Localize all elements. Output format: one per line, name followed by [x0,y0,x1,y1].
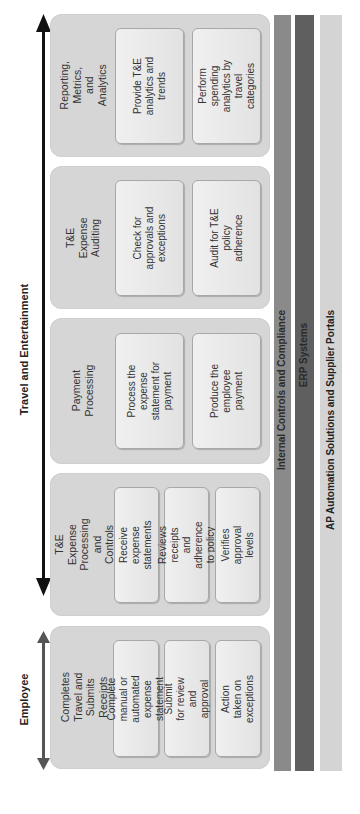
panel-reporting-metrics-analytics: Reporting, Metrics, and Analytics Provid… [50,14,270,157]
task-box: Complete manual or automated expense sta… [113,640,159,757]
panel-payment-processing: Payment Processing Process the expense s… [50,318,270,464]
panel-title: Reporting, Metrics, and Analytics [58,18,108,153]
task-box: Check for approvals and exceptions [115,180,184,296]
bar-internal-controls: Internal Controls and Compliance [274,15,291,771]
panel-title: T&E Expense Auditing [58,170,108,305]
task-box: Receive expense statements [114,487,159,603]
task-box: Provide T&E analytics and trends [115,28,184,144]
panel-completes-travel-submits-receipts: Completes Travel and Submits Receipts Co… [50,626,270,769]
task-box: Verifies approval levels [215,487,260,603]
arrowhead-down-icon [36,578,51,596]
task-box: Produce the employee payment [192,333,261,449]
arrowhead-up-icon [36,14,51,32]
task-box: Process the expense statement for paymen… [115,333,184,449]
panel-title: T&E Expense Processing and Controls [58,477,110,612]
panel-title: Payment Processing [58,322,108,460]
panel-te-expense-auditing: T&E Expense Auditing Check for approvals… [50,166,270,309]
bar-erp-systems: ERP Systems [295,15,314,771]
panel-te-expense-processing-controls: T&E Expense Processing and Controls Rece… [50,473,270,616]
panel-title: Completes Travel and Submits Receipts [58,630,110,765]
employee-arrowhead-up-icon [37,631,50,643]
employee-arrowhead-down-icon [37,758,50,770]
bar-ap-automation: AP Automation Solutions and Supplier Por… [320,15,342,771]
task-box: Perform spending analytics by travel cat… [192,28,261,144]
task-box: Reviews receipts and adherence to policy [164,487,209,603]
task-box: Submit for review and approval [164,640,210,757]
travel-entertainment-label: Travel and Entertainment [14,250,36,450]
employee-label: Employee [14,660,36,740]
task-box: Audit for T&E policy adherence [192,180,261,296]
task-box: Action taken on exceptions [215,640,261,757]
